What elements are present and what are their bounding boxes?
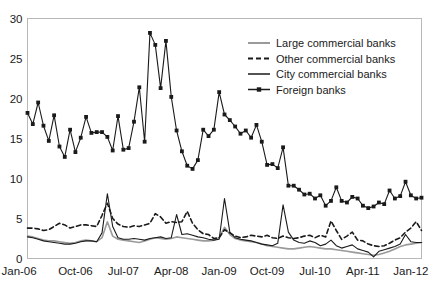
y-tick-label: 15 [10, 133, 23, 145]
data-point-marker [265, 163, 269, 167]
x-tick-label: Jul-10 [299, 265, 330, 277]
data-point-marker [372, 205, 376, 209]
data-point-marker [249, 136, 253, 140]
y-tick-label: 25 [10, 53, 23, 65]
data-point-marker [58, 145, 62, 149]
data-point-marker [329, 199, 333, 203]
data-point-marker [169, 95, 173, 99]
data-point-marker [223, 113, 227, 117]
data-point-marker [286, 184, 290, 188]
data-point-marker [244, 129, 248, 133]
data-point-marker [100, 130, 104, 134]
data-point-marker [388, 189, 392, 193]
data-point-marker [414, 197, 418, 201]
x-tick-label: Apr-08 [154, 265, 189, 277]
data-point-marker [276, 166, 280, 170]
data-point-marker [228, 118, 232, 122]
data-point-marker [308, 192, 312, 196]
data-point-marker [175, 129, 179, 133]
data-point-marker [281, 145, 285, 149]
data-point-marker [47, 139, 51, 143]
data-point-marker [393, 197, 397, 201]
data-point-marker [185, 164, 189, 168]
data-point-marker [84, 115, 88, 119]
data-point-marker [356, 197, 360, 201]
legend-label: Foreign banks [276, 84, 346, 96]
data-point-marker [159, 86, 163, 90]
data-point-marker [153, 43, 157, 47]
data-point-marker [318, 193, 322, 197]
y-tick-label: 20 [10, 93, 23, 105]
data-point-marker [180, 149, 184, 153]
y-tick-label: 10 [10, 173, 23, 185]
data-point-marker [111, 149, 115, 153]
line-chart: 051015202530 Jan-06Oct-06Jul-07Apr-08Jan… [0, 0, 431, 283]
data-point-marker [420, 196, 424, 200]
data-point-marker [143, 140, 147, 144]
data-point-marker [132, 120, 136, 124]
x-tick-label: Oct-06 [58, 265, 93, 277]
x-tick-label: Oct-09 [250, 265, 285, 277]
data-point-marker [127, 146, 131, 150]
data-point-marker [260, 140, 264, 144]
data-point-marker [334, 185, 338, 189]
data-point-marker [292, 184, 296, 188]
data-point-marker [212, 128, 216, 132]
data-point-marker [121, 148, 125, 152]
data-point-marker [79, 136, 83, 140]
data-point-marker [207, 134, 211, 138]
data-point-marker [239, 132, 243, 136]
x-tick-label: Apr-11 [346, 265, 380, 277]
data-point-marker [302, 193, 306, 197]
data-point-marker [89, 131, 93, 135]
legend-label: Large commercial banks [276, 37, 396, 49]
data-point-marker [361, 204, 365, 208]
data-point-marker [340, 199, 344, 203]
y-tick-label: 30 [10, 13, 23, 25]
data-point-marker [409, 193, 413, 197]
data-point-marker [233, 125, 237, 129]
data-point-marker [201, 128, 205, 132]
data-point-marker [63, 155, 67, 159]
y-tick-label: 0 [16, 253, 22, 265]
data-point-marker [26, 111, 30, 115]
legend-label: Other commercial banks [276, 53, 396, 65]
data-point-marker [313, 197, 317, 201]
x-tick-label: Jul-07 [108, 265, 139, 277]
data-point-marker [255, 123, 259, 127]
data-point-marker [74, 150, 78, 154]
data-point-marker [297, 188, 301, 192]
x-tick-label: Jan-06 [2, 265, 37, 277]
x-tick-label: Jan-12 [393, 265, 428, 277]
data-point-marker [148, 31, 152, 35]
data-point-marker [68, 128, 72, 132]
data-point-marker [36, 101, 40, 105]
x-axis-tick-labels: Jan-06Oct-06Jul-07Apr-08Jan-09Oct-09Jul-… [2, 265, 429, 277]
data-point-marker [196, 158, 200, 162]
data-point-marker [105, 135, 109, 139]
data-point-marker [271, 162, 275, 166]
data-point-marker [137, 85, 141, 89]
data-point-marker [404, 180, 408, 184]
data-point-marker [324, 204, 328, 208]
data-point-marker [164, 39, 168, 43]
data-point-marker [350, 195, 354, 199]
data-point-marker [366, 206, 370, 210]
data-point-marker [31, 122, 35, 126]
legend-label: City commercial banks [276, 68, 387, 80]
data-point-marker [95, 130, 99, 134]
data-point-marker [345, 201, 349, 205]
data-point-marker [116, 114, 120, 118]
data-point-marker [377, 201, 381, 205]
legend-marker-square [257, 87, 261, 91]
x-tick-label: Jan-09 [202, 265, 237, 277]
y-tick-label: 5 [16, 213, 22, 225]
data-point-marker [398, 194, 402, 198]
data-point-marker [217, 90, 221, 94]
chart-container: 051015202530 Jan-06Oct-06Jul-07Apr-08Jan… [0, 0, 431, 283]
data-point-marker [382, 202, 386, 206]
data-point-marker [191, 167, 195, 171]
data-point-marker [52, 113, 56, 117]
data-point-marker [42, 124, 46, 128]
